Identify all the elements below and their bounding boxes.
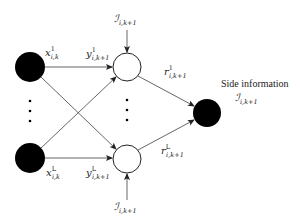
label-yL: yLi,k+1	[85, 165, 110, 181]
relay-ellipsis	[126, 99, 129, 122]
label-x1: x1i,k	[45, 45, 59, 61]
label-side-info-bottom: ℐi,k+1	[114, 201, 137, 215]
side-information-title: Side information	[221, 78, 289, 89]
label-rL: rLi,k+1	[161, 143, 184, 159]
sink-node	[193, 99, 221, 127]
edge-relay1-to-sink	[138, 76, 194, 106]
network-diagram: x1i,k y1i,k+1 xLi,k yLi,k+1 r1i,k+1 rLi,…	[0, 0, 300, 220]
label-y1: y1i,k+1	[85, 46, 109, 62]
source-node-1	[15, 52, 45, 82]
relay-node-1	[113, 53, 141, 81]
source-node-L	[15, 143, 45, 173]
label-r1: r1i,k+1	[164, 64, 187, 80]
label-xL: xLi,k	[46, 165, 60, 181]
label-side-info-top: ℐi,k+1	[114, 13, 137, 27]
label-side-info-sink: ℐi,k+1	[235, 92, 258, 106]
relay-node-L	[113, 145, 141, 173]
source-ellipsis	[29, 100, 32, 123]
